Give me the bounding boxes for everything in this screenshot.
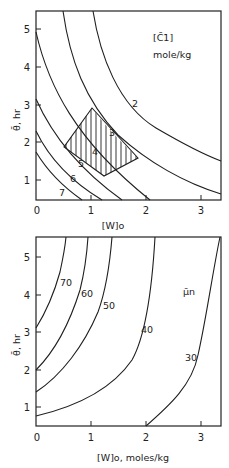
bottom-y-axis-title: θ̄, hr [11, 334, 22, 356]
curve-label-3: 3 [109, 127, 115, 138]
bottom-x-ticks: 0 1 2 3 [34, 421, 204, 443]
x-tick-0: 0 [34, 205, 40, 216]
x-tick-0: 0 [34, 432, 40, 443]
y-tick-4: 4 [24, 290, 30, 301]
x-tick-2: 2 [143, 432, 149, 443]
figure: 5 4 3 2 1 0 1 2 3 [W]o θ̄, hr [C̄1] mole… [0, 0, 229, 468]
curve-label-4: 4 [92, 146, 98, 157]
legend-mu-n: μ̄n [183, 286, 195, 297]
curve-5 [36, 99, 122, 200]
bottom-y-ticks: 5 4 3 2 1 [24, 252, 41, 413]
y-tick-1: 1 [24, 175, 30, 186]
y-tick-2: 2 [24, 365, 30, 376]
legend-title: [C̄1] [153, 32, 173, 43]
top-y-axis-title: θ̄, hr [11, 109, 22, 131]
x-tick-3: 3 [198, 205, 204, 216]
legend-units: mole/kg [153, 49, 191, 60]
curve-label-70: 70 [60, 277, 72, 288]
x-tick-1: 1 [88, 432, 94, 443]
curve-60 [36, 237, 88, 370]
x-tick-1: 1 [88, 205, 94, 216]
curve-30 [146, 237, 220, 426]
y-tick-5: 5 [24, 252, 30, 263]
curve-3 [63, 11, 221, 194]
top-plot-frame [36, 11, 221, 200]
x-tick-3: 3 [198, 432, 204, 443]
curve-40 [36, 237, 155, 416]
bottom-chart: 5 4 3 2 1 0 1 2 3 [W]o, moles/kg θ̄, hr … [11, 237, 221, 463]
curve-50 [36, 237, 112, 392]
curve-label-7: 7 [59, 187, 65, 198]
curve-label-30: 30 [185, 352, 197, 363]
y-tick-4: 4 [24, 62, 30, 73]
y-tick-3: 3 [24, 100, 30, 111]
top-y-ticks: 5 4 3 2 1 [24, 24, 41, 186]
y-tick-2: 2 [24, 137, 30, 148]
x-tick-2: 2 [143, 205, 149, 216]
y-tick-1: 1 [24, 402, 30, 413]
curve-label-50: 50 [103, 300, 115, 311]
top-x-axis-title: [W]o [102, 220, 125, 231]
curve-label-6: 6 [70, 173, 76, 184]
y-tick-3: 3 [24, 327, 30, 338]
curve-label-5: 5 [78, 158, 84, 169]
top-chart: 5 4 3 2 1 0 1 2 3 [W]o θ̄, hr [C̄1] mole… [11, 11, 221, 231]
y-tick-5: 5 [24, 24, 30, 35]
curve-label-60: 60 [81, 288, 93, 299]
bottom-x-axis-title: [W]o, moles/kg [97, 452, 169, 463]
curve-label-2: 2 [132, 98, 138, 109]
curve-label-40: 40 [141, 324, 153, 335]
